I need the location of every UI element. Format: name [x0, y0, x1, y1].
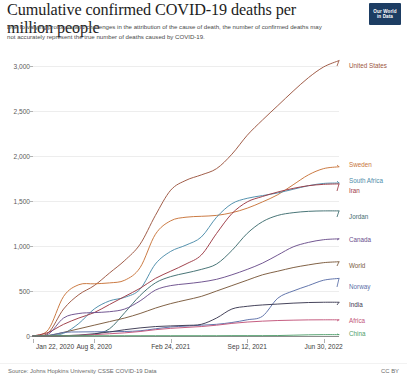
- x-axis-tick: [94, 339, 95, 343]
- source-note: Source: Johns Hopkins University CSSE CO…: [8, 368, 157, 374]
- legend-item-africa[interactable]: Africa: [337, 317, 365, 324]
- legend-item-jordan[interactable]: Jordan: [337, 213, 368, 220]
- our-world-in-data-logo[interactable]: Our World in Data: [369, 3, 401, 25]
- x-axis-tick-label: Jan 22, 2020: [36, 343, 74, 350]
- chart-subtitle: Due to varying protocols and challenges …: [7, 22, 329, 41]
- x-axis-tick-label: Feb 24, 2021: [151, 343, 190, 350]
- footer-divider: [0, 363, 407, 364]
- x-axis-tick-label: Jun 30, 2022: [305, 343, 343, 350]
- legend-item-canada[interactable]: Canada: [337, 236, 371, 243]
- series-line[interactable]: [33, 320, 339, 336]
- license-note[interactable]: CC BY: [381, 368, 399, 374]
- x-axis-labels: Jan 22, 2020Aug 8, 2020Feb 24, 2021Sep 1…: [0, 343, 407, 357]
- chart-page: Cumulative confirmed COVID-19 deaths per…: [0, 0, 407, 392]
- legend-item-sweden[interactable]: Sweden: [337, 161, 372, 168]
- legend-item-world[interactable]: World: [337, 262, 365, 269]
- legend-item-south-africa[interactable]: South Africa: [337, 177, 383, 184]
- legend-item-norway[interactable]: Norway: [337, 283, 370, 290]
- legend-item-united-states[interactable]: United States: [337, 62, 387, 69]
- x-axis-tick-label: Aug 8, 2020: [76, 343, 112, 350]
- series-legend: United StatesSwedenSouth AfricaIranJorda…: [337, 55, 407, 343]
- logo-line-2: in Data: [377, 14, 393, 19]
- series-line[interactable]: [33, 167, 339, 336]
- legend-item-iran[interactable]: Iran: [337, 187, 360, 194]
- x-axis-tick: [33, 339, 34, 343]
- x-axis-tick: [247, 339, 248, 343]
- series-line[interactable]: [33, 61, 339, 336]
- series-line[interactable]: [33, 239, 339, 336]
- legend-item-china[interactable]: China: [337, 330, 365, 337]
- series-line[interactable]: [33, 211, 339, 336]
- x-axis-tick-label: Sep 12, 2021: [228, 343, 267, 350]
- x-axis-tick: [324, 339, 325, 343]
- legend-item-india[interactable]: India: [337, 301, 363, 308]
- x-axis-tick: [171, 339, 172, 343]
- series-line[interactable]: [33, 302, 339, 336]
- chart-footer: Source: Johns Hopkins University CSSE CO…: [0, 368, 407, 382]
